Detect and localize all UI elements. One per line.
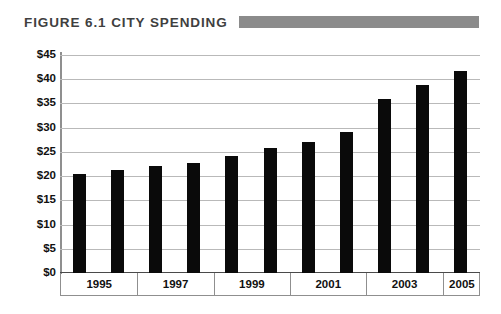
y-axis-tick-label: $0	[10, 266, 56, 279]
y-axis-tick-label: $35	[10, 96, 56, 109]
bar	[302, 142, 315, 273]
bar	[111, 170, 124, 273]
bar	[264, 148, 277, 273]
bar	[416, 85, 429, 273]
x-axis-label-band: 199519971999200120032005	[60, 273, 480, 296]
x-axis-tick-label: 2003	[366, 277, 442, 292]
y-axis-tick-label: $40	[10, 72, 56, 85]
bar	[187, 163, 200, 273]
y-axis-tick-label: $30	[10, 121, 56, 134]
bar	[149, 166, 162, 273]
figure-city-spending: FIGURE 6.1 CITY SPENDING $45 $40 $35 $30…	[0, 0, 501, 314]
x-axis-tick-label: 2005	[443, 277, 481, 292]
y-axis-tick-label: $5	[10, 242, 56, 255]
y-axis-tick-label: $15	[10, 193, 56, 206]
bar	[225, 156, 238, 273]
x-axis-tick-label: 1997	[137, 277, 213, 292]
bar	[454, 71, 467, 273]
bar	[340, 132, 353, 273]
chart-plot-area: $45 $40 $35 $30 $25 $20 $15 $10 $5 $0 19…	[0, 0, 501, 314]
y-axis-tick-labels: $45 $40 $35 $30 $25 $20 $15 $10 $5 $0	[10, 48, 56, 280]
bar	[73, 174, 86, 273]
x-axis-tick-label: 1999	[214, 277, 290, 292]
chart-bars	[60, 55, 480, 273]
y-axis-tick-label: $25	[10, 145, 56, 158]
y-axis-tick-label: $10	[10, 218, 56, 231]
x-axis-tick-label: 2001	[290, 277, 366, 292]
bar	[378, 99, 391, 273]
y-axis-tick-label: $20	[10, 169, 56, 182]
x-axis-tick-label: 1995	[61, 277, 137, 292]
y-axis-tick-label: $45	[10, 48, 56, 61]
